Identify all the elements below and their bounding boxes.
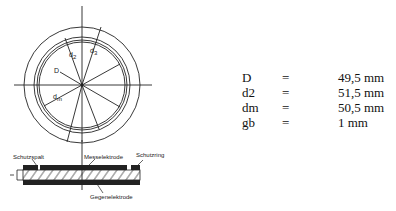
circle-labels: d2 d3 D dm bbox=[53, 47, 98, 102]
svg-text:D: D bbox=[54, 67, 59, 74]
dimensions-table: D = 49,5 mm d2 = 51,5 mm dm = 50,5 mm gb… bbox=[210, 70, 396, 140]
top-view bbox=[14, 6, 152, 143]
dimension-row-dm: dm = 50,5 mm bbox=[210, 100, 396, 116]
svg-text:Schutzspalt: Schutzspalt bbox=[13, 154, 44, 160]
center-point bbox=[80, 83, 83, 86]
dimension-row-D: D = 49,5 mm bbox=[210, 70, 396, 86]
cross-section bbox=[10, 140, 143, 193]
measuring-electrode bbox=[40, 165, 127, 170]
svg-text:Schutzring: Schutzring bbox=[136, 152, 164, 158]
dimension-row-d2: d2 = 51,5 mm bbox=[210, 85, 396, 101]
svg-text:Messelektrode: Messelektrode bbox=[84, 154, 124, 160]
svg-text:d2: d2 bbox=[69, 51, 77, 60]
svg-text:Gegenelektrode: Gegenelektrode bbox=[90, 194, 133, 200]
dimension-row-gb: gb = 1 mm bbox=[210, 115, 396, 131]
guard-ring bbox=[131, 165, 140, 170]
dielectric bbox=[23, 170, 140, 180]
counter-electrode bbox=[23, 180, 140, 185]
